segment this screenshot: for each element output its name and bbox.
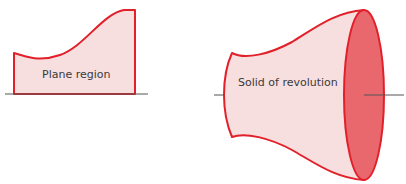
- diagram-canvas: [0, 0, 406, 184]
- plane-region: [5, 10, 148, 94]
- solid-label: Solid of revolution: [238, 76, 338, 89]
- plane-region-label: Plane region: [42, 68, 110, 81]
- solid-of-revolution: [214, 10, 404, 180]
